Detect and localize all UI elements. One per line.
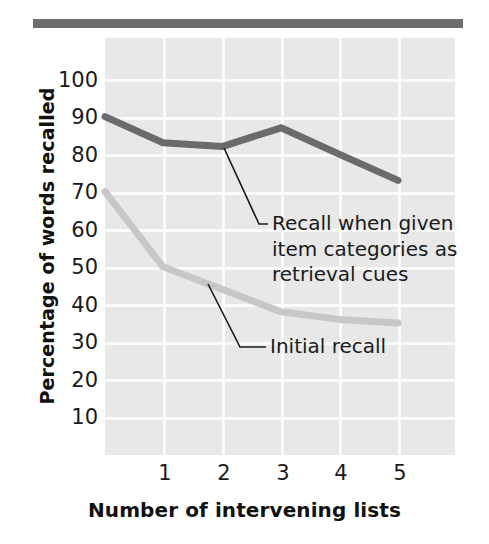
annotation-initial-recall: Initial recall bbox=[270, 334, 386, 360]
x-tick-label: 4 bbox=[326, 463, 356, 484]
annotation-line: retrieval cues bbox=[272, 262, 457, 288]
annotation-line: Initial recall bbox=[270, 334, 386, 360]
annotation-cued-recall: Recall when given item categories as ret… bbox=[272, 211, 457, 288]
x-tick-label: 1 bbox=[150, 463, 180, 484]
x-axis-title: Number of intervening lists bbox=[0, 498, 489, 522]
x-tick-label: 2 bbox=[209, 463, 239, 484]
x-tick-label: 5 bbox=[385, 463, 415, 484]
y-axis-title: Percentage of words recalled bbox=[36, 81, 58, 411]
annotation-line: Recall when given bbox=[272, 211, 457, 237]
annotation-line: item categories as bbox=[272, 237, 457, 263]
x-tick-label: 3 bbox=[268, 463, 298, 484]
figure-container: 100 90 80 70 60 50 40 30 20 10 Percentag… bbox=[0, 0, 489, 544]
series-line-cued-recall bbox=[105, 117, 398, 181]
